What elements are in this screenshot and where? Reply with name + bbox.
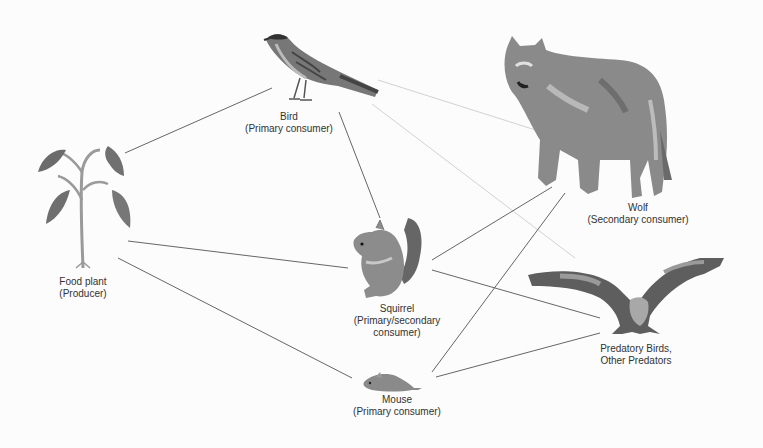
- label-bird: Bird (Primary consumer): [245, 111, 333, 135]
- squirrel-role-line2: consumer): [354, 327, 441, 339]
- mouse-icon: [363, 372, 422, 392]
- bird-icon: [264, 34, 378, 100]
- label-mouse: Mouse (Primary consumer): [353, 394, 441, 418]
- edge-plant-mouse: [118, 258, 352, 378]
- edge-plant-squirrel: [128, 241, 348, 268]
- label-food-plant: Food plant (Producer): [59, 276, 106, 300]
- squirrel-icon: [353, 218, 421, 298]
- mouse-role: (Primary consumer): [353, 406, 441, 418]
- label-wolf: Wolf (Secondary consumer): [587, 202, 688, 226]
- wolf-name: Wolf: [587, 202, 688, 214]
- predator-role: Other Predators: [600, 355, 672, 367]
- edge-mouse-predator: [436, 333, 600, 377]
- food-plant-icon: [38, 146, 130, 268]
- wolf-icon: [505, 36, 672, 198]
- label-squirrel: Squirrel (Primary/secondary consumer): [354, 303, 441, 339]
- edge-bird-squirrel: [339, 112, 380, 218]
- edge-squirrel-wolf: [432, 187, 552, 260]
- predator-name: Predatory Birds,: [600, 343, 672, 355]
- bird-name: Bird: [245, 111, 333, 123]
- wolf-role: (Secondary consumer): [587, 214, 688, 226]
- mouse-name: Mouse: [353, 394, 441, 406]
- squirrel-role-line1: (Primary/secondary: [354, 315, 441, 327]
- food-plant-name: Food plant: [59, 276, 106, 288]
- food-plant-role: (Producer): [59, 288, 106, 300]
- label-predatory-birds: Predatory Birds, Other Predators: [600, 343, 672, 367]
- squirrel-name: Squirrel: [354, 303, 441, 315]
- predatory-bird-icon: [528, 258, 724, 334]
- bird-role: (Primary consumer): [245, 123, 333, 135]
